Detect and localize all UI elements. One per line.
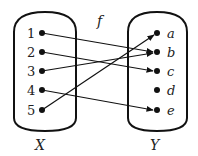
codomain-set-label: Y bbox=[150, 137, 161, 153]
function-label: f bbox=[96, 13, 105, 29]
domain-points bbox=[39, 30, 45, 113]
arrow-1-to-b bbox=[42, 33, 153, 52]
codomain-points bbox=[154, 30, 160, 113]
codomain-element-b: b bbox=[167, 45, 175, 60]
function-mapping-diagram: f 1 2 3 4 5 a b c d e X Y bbox=[0, 0, 198, 156]
domain-element-1: 1 bbox=[27, 26, 35, 41]
arrow-4-to-e bbox=[42, 90, 153, 110]
domain-element-2: 2 bbox=[27, 45, 35, 60]
set-x-container bbox=[14, 12, 76, 131]
codomain-element-a: a bbox=[167, 26, 175, 41]
domain-element-5: 5 bbox=[27, 103, 35, 118]
arrow-5-to-a bbox=[42, 35, 154, 110]
domain-element-4: 4 bbox=[27, 83, 35, 98]
codomain-element-d: d bbox=[167, 83, 175, 98]
codomain-element-e: e bbox=[167, 103, 175, 118]
domain-element-3: 3 bbox=[27, 64, 35, 79]
mapping-arrows bbox=[42, 33, 154, 110]
domain-set-label: X bbox=[34, 137, 46, 153]
codomain-element-c: c bbox=[167, 64, 175, 79]
